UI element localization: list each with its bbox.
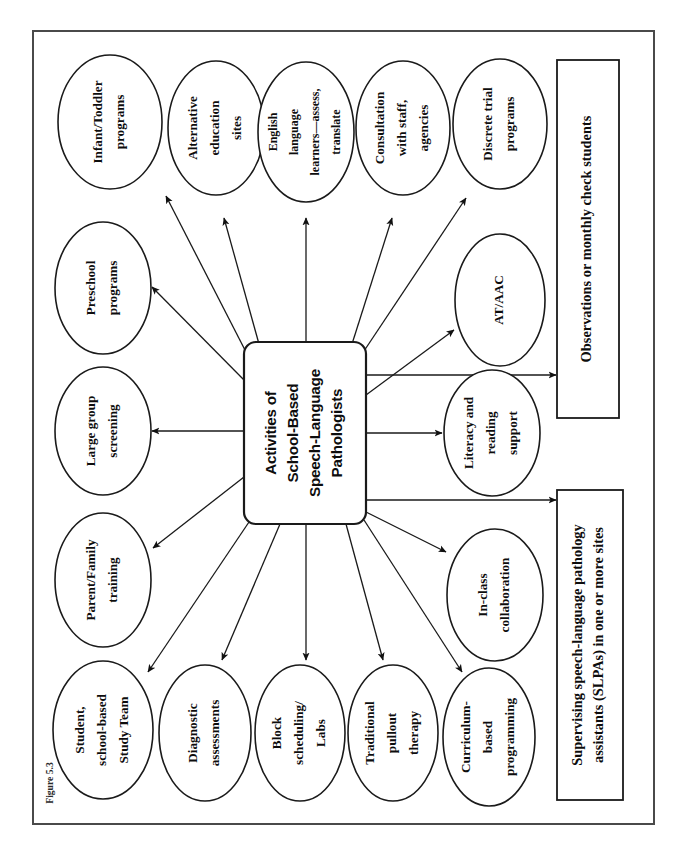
node-label-curriculum-based-programming-1: based bbox=[480, 720, 495, 753]
connector-to-alternative-education-sites bbox=[224, 218, 259, 344]
observations-box: Observations or monthly check students bbox=[557, 60, 619, 418]
node-label-parent-family-training-0: Parent/Family bbox=[83, 539, 98, 620]
node-label-student-study-team-2: Study Team bbox=[116, 696, 131, 763]
node-infant-toddler-programs[interactable]: Infant/Toddler programs bbox=[58, 55, 162, 189]
node-label-consultation-with-staff-2: agencies bbox=[416, 105, 431, 152]
connector-to-infant-toddler-programs bbox=[166, 196, 246, 352]
connector-to-preschool-programs bbox=[152, 287, 244, 380]
node-label-block-scheduling-labs-0: Block bbox=[269, 716, 284, 749]
node-label-block-scheduling-labs-2: Labs bbox=[313, 719, 328, 747]
node-label-alternative-education-sites-1: education bbox=[207, 100, 222, 156]
node-label-traditional-pullout-therapy-2: therapy bbox=[406, 711, 421, 755]
node-label-infant-toddler-programs-0: Infant/Toddler bbox=[90, 80, 105, 163]
node-label-english-language-learners-2: learners—assess, bbox=[308, 89, 322, 176]
supervising-slpas-box-label-line-0: Supervising speech-language pathology bbox=[569, 523, 585, 765]
figure-page: Observations or monthly check students S… bbox=[0, 0, 681, 850]
node-literacy-and-reading-support[interactable]: Literacy and reading support bbox=[444, 370, 540, 496]
node-traditional-pullout-therapy[interactable]: Traditional pullout therapy bbox=[348, 665, 438, 801]
node-label-student-study-team-1: school-based bbox=[94, 693, 109, 765]
connector-to-parent-family-training bbox=[153, 477, 244, 548]
hub-label-line-1: School-Based bbox=[284, 384, 301, 483]
node-label-block-scheduling-labs-1: scheduling/ bbox=[291, 701, 306, 765]
node-at-aac[interactable]: AT/AAC bbox=[455, 234, 545, 366]
node-english-language-learners[interactable]: English language learners—assess, transl… bbox=[258, 62, 354, 202]
node-label-literacy-and-reading-support-0: Literacy and bbox=[461, 396, 476, 469]
connector-to-student-study-team bbox=[148, 522, 249, 672]
hub-label-line-3: Pathologists bbox=[328, 389, 345, 478]
node-label-student-study-team-0: Student, bbox=[72, 706, 87, 753]
node-label-at-aac-0: AT/AAC bbox=[491, 275, 506, 325]
node-discrete-trial-programs[interactable]: Discrete trial programs bbox=[453, 59, 547, 189]
node-large-group-screening[interactable]: Large group screening bbox=[55, 367, 151, 495]
node-label-curriculum-based-programming-0: Curriculum- bbox=[458, 701, 473, 773]
node-label-large-group-screening-1: screening bbox=[105, 404, 120, 458]
hub-label-line-2: Speech-Language bbox=[306, 369, 323, 497]
node-label-traditional-pullout-therapy-0: Traditional bbox=[362, 701, 377, 765]
connector-to-consultation-with-staff bbox=[352, 218, 392, 344]
figure-caption-text: Figure 5.3 bbox=[44, 762, 55, 804]
node-preschool-programs[interactable]: Preschool programs bbox=[55, 222, 151, 354]
node-label-discrete-trial-programs-1: programs bbox=[502, 97, 517, 152]
node-label-curriculum-based-programming-2: programming bbox=[502, 698, 517, 777]
node-label-consultation-with-staff-1: with staff, bbox=[394, 100, 409, 156]
node-label-literacy-and-reading-support-2: support bbox=[505, 410, 520, 455]
figure-caption: Figure 5.3 bbox=[44, 762, 55, 804]
node-label-parent-family-training-1: training bbox=[105, 557, 120, 603]
node-label-alternative-education-sites-2: sites bbox=[229, 116, 244, 140]
node-curriculum-based-programming[interactable]: Curriculum- based programming bbox=[443, 668, 535, 806]
hub-label-line-0: Activities of bbox=[262, 390, 279, 475]
node-label-in-class-collaboration-1: collaboration bbox=[497, 557, 512, 632]
node-label-diagnostic-assessments-1: assessments bbox=[207, 700, 222, 767]
supervising-slpas-box: Supervising speech-language pathology as… bbox=[557, 490, 623, 800]
node-label-in-class-collaboration-0: In-class bbox=[475, 573, 490, 616]
node-label-infant-toddler-programs-1: programs bbox=[112, 95, 127, 150]
diagram-canvas: Observations or monthly check students S… bbox=[0, 0, 681, 850]
connector-to-diagnostic-assessments bbox=[222, 524, 280, 660]
node-diagnostic-assessments[interactable]: Diagnostic assessments bbox=[159, 665, 251, 801]
node-label-english-language-learners-0: English bbox=[266, 112, 280, 151]
node-label-diagnostic-assessments-0: Diagnostic bbox=[185, 703, 200, 762]
supervising-slpas-box-label-line-1: assistants (SLPAs) in one or more sites bbox=[590, 527, 607, 763]
hub-node[interactable]: Activities of School-Based Speech-Langua… bbox=[244, 342, 366, 524]
node-label-english-language-learners-1: language bbox=[287, 108, 301, 155]
node-label-english-language-learners-3: translate bbox=[329, 109, 343, 155]
connector-to-at-aac bbox=[366, 330, 454, 395]
node-in-class-collaboration[interactable]: In-class collaboration bbox=[447, 529, 543, 661]
node-alternative-education-sites[interactable]: Alternative education sites bbox=[168, 61, 264, 195]
node-label-traditional-pullout-therapy-1: pullout bbox=[384, 712, 399, 753]
node-parent-family-training[interactable]: Parent/Family training bbox=[55, 513, 151, 647]
node-label-large-group-screening-0: Large group bbox=[83, 396, 98, 466]
connector-to-in-class-collaboration bbox=[366, 512, 446, 552]
node-label-literacy-and-reading-support-1: reading bbox=[483, 411, 498, 454]
connector-to-traditional-pullout-therapy bbox=[346, 524, 383, 660]
node-block-scheduling-labs[interactable]: Block scheduling/ Labs bbox=[255, 665, 345, 801]
node-label-discrete-trial-programs-0: Discrete trial bbox=[480, 87, 495, 161]
node-label-preschool-programs-0: Preschool bbox=[83, 260, 98, 315]
node-consultation-with-staff[interactable]: Consultation with staff, agencies bbox=[356, 61, 450, 195]
node-label-preschool-programs-1: programs bbox=[105, 261, 120, 316]
observations-box-label-line-0: Observations or monthly check students bbox=[578, 115, 594, 362]
node-student-study-team[interactable]: Student, school-based Study Team bbox=[53, 661, 153, 799]
node-label-alternative-education-sites-0: Alternative bbox=[185, 96, 200, 160]
node-label-consultation-with-staff-0: Consultation bbox=[372, 91, 387, 164]
connector-to-discrete-trial-programs bbox=[364, 198, 466, 351]
